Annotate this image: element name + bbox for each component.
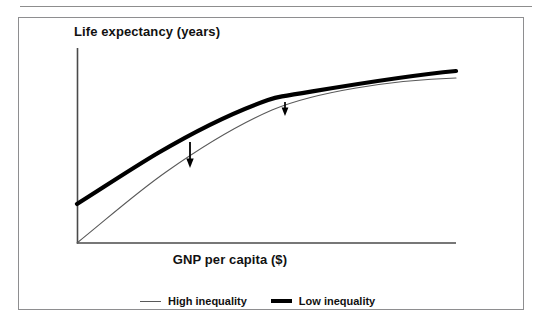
chart-legend: High inequality Low inequality [140, 292, 440, 310]
legend-swatch-thick-line-icon [271, 299, 292, 303]
legend-item-high-inequality: High inequality [140, 295, 247, 307]
legend-item-low-inequality: Low inequality [271, 295, 375, 307]
legend-swatch-thin-line-icon [140, 301, 161, 302]
y-axis-title: Life expectancy (years) [74, 24, 220, 39]
figure-container: Life expectancy (years) GNP per capita (… [0, 0, 542, 328]
x-axis-title: GNP per capita ($) [0, 252, 460, 267]
legend-label-high-inequality: High inequality [168, 295, 247, 307]
legend-label-low-inequality: Low inequality [299, 295, 375, 307]
page-top-rule [20, 6, 532, 7]
